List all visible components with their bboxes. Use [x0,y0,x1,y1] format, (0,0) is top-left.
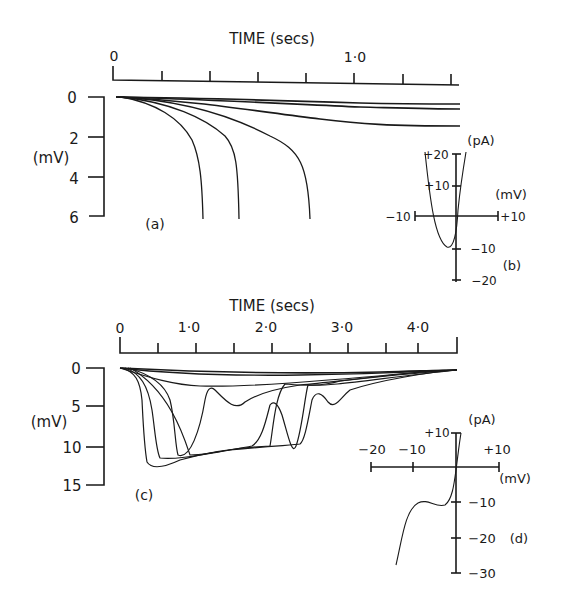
panel-a-y-unit: (mV) [33,149,70,167]
panel-c-x-axis [120,337,457,353]
panel-a-label: (a) [145,216,165,232]
panel-b-x-pos10: +10 [500,210,525,224]
panel-c-x-tick-2: 2·0 [255,319,277,335]
panel-d-x-neg20: −20 [358,442,385,457]
panel-a: TIME (secs) 0 1·0 0 2 4 6 (mV) (a) [33,30,460,232]
panel-d-x-unit: (mV) [499,471,531,486]
figure: TIME (secs) 0 1·0 0 2 4 6 (mV) (a) [0,0,567,593]
panel-a-x-tick-1: 1·0 [344,49,366,65]
panel-c-y-unit: (mV) [31,413,68,431]
panel-c-x-tick-1: 1·0 [178,319,200,335]
panel-b-y-pos20: +20 [423,148,448,162]
panel-d-y-pos10: +10 [424,426,449,440]
panel-b-label: (b) [503,258,521,273]
panel-c-y-tick-0: 0 [71,360,81,378]
panel-b-iv-curve [425,152,466,247]
panel-c-x-tick-3: 3·0 [331,319,353,335]
panel-c-x-tick-0: 0 [116,320,125,336]
panel-c-y-tick-5: 5 [71,398,81,416]
panel-a-x-axis [113,66,459,85]
panel-c-y-axis [86,368,104,485]
panel-d: (pA) +10 −10 −20 −30 −20 −10 +10 (mV) (d… [358,412,531,581]
panel-b-y-unit: (pA) [467,133,494,148]
panel-a-y-tick-4: 4 [69,170,79,188]
panel-b: (pA) +20 +10 −10 −20 −10 +10 (mV) (b) [385,133,527,288]
panel-d-label: (d) [510,531,528,546]
panel-c-label: (c) [135,487,154,503]
panel-a-y-tick-0: 0 [67,89,77,107]
panel-c-y-tick-10: 10 [62,439,81,457]
panel-c-time-title: TIME (secs) [228,297,315,315]
panel-a-y-axis [88,97,104,216]
panel-c: TIME (secs) 0 1·0 2·0 3·0 4·0 0 5 10 15 … [31,297,457,503]
panel-a-y-tick-2: 2 [69,130,79,148]
panel-b-x-unit: (mV) [495,187,527,202]
panel-a-x-tick-0: 0 [110,48,119,64]
panel-b-y-pos10: +10 [424,179,449,193]
panel-a-time-title: TIME (secs) [228,30,315,48]
panel-d-y-neg20: −20 [468,531,495,546]
panel-a-y-tick-6: 6 [69,209,79,227]
panel-d-y-neg10: −10 [468,495,495,510]
panel-b-y-neg10: −10 [470,242,495,256]
panel-b-x-neg10: −10 [385,210,410,224]
panel-d-y-neg30: −30 [468,566,495,581]
panel-d-y-unit: (pA) [468,412,495,427]
panel-d-x-pos10: +10 [483,442,510,457]
panel-c-y-tick-15: 15 [62,477,81,495]
panel-c-x-tick-4: 4·0 [407,319,429,335]
panel-b-y-neg20: −20 [471,274,496,288]
panel-d-x-neg10: −10 [398,442,425,457]
panel-a-traces [116,97,460,219]
